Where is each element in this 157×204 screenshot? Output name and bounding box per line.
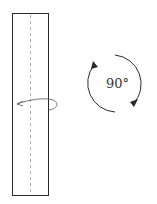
- origami-diagram: 90°: [0, 0, 157, 204]
- rotation-label: 90°: [106, 76, 129, 91]
